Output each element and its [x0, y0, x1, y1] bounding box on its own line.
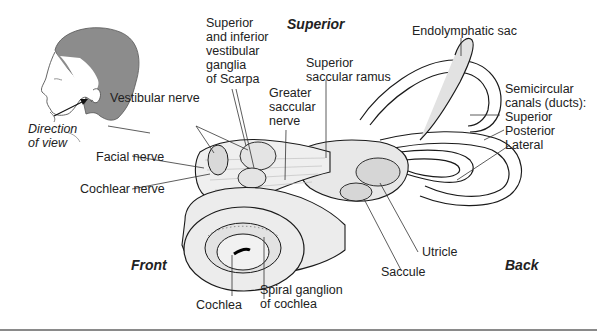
label-greater-saccular-nerve: Greater saccular nerve	[269, 86, 316, 128]
label-spiral-ganglion: Spiral ganglion of cochlea	[260, 283, 343, 311]
label-lateral-canal: Lateral	[505, 138, 543, 153]
label-cochlear-nerve: Cochlear nerve	[80, 182, 165, 197]
facial-nerve-cut-end	[208, 145, 228, 175]
label-facial-nerve: Facial nerve	[96, 150, 164, 165]
label-semicircular-canals: Semicircular canals (ducts):	[505, 82, 586, 110]
label-cochlea: Cochlea	[196, 298, 242, 313]
label-saccule: Saccule	[381, 265, 425, 280]
bottom-rule	[0, 329, 597, 331]
vestibular-ganglion	[240, 142, 276, 170]
orientation-front: Front	[131, 257, 167, 273]
label-vestibular-nerve: Vestibular nerve	[110, 91, 200, 106]
direction-of-view-caption-line2: of view	[28, 136, 67, 151]
label-vestibular-ganglia: Superior and inferior vestibular ganglia…	[206, 16, 269, 86]
label-superior-canal: Superior	[505, 110, 552, 125]
orientation-back: Back	[505, 257, 538, 273]
label-endolymphatic-sac: Endolymphatic sac	[412, 24, 517, 39]
label-superior-saccular-ramus: Superior saccular ramus	[306, 56, 391, 84]
label-utricle: Utricle	[422, 245, 457, 260]
label-posterior-canal: Posterior	[505, 124, 555, 139]
orientation-superior: Superior	[287, 16, 345, 32]
inner-ear-diagram: Superior Front Back Direction of view Ve…	[0, 0, 597, 333]
direction-of-view-caption-line1: Direction	[28, 122, 77, 137]
cochlea	[182, 187, 345, 291]
